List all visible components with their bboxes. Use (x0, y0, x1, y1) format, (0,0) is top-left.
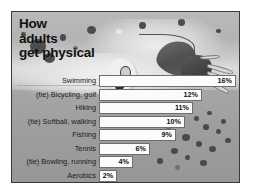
chart-row-label: Aerobics (12, 170, 99, 182)
chart-bar: 4% (99, 156, 133, 168)
title-line-3: get physical (19, 46, 129, 61)
chart-row: Swimming16% (12, 75, 239, 87)
chart-row: Tennis6% (12, 143, 239, 155)
chart-row: Fishing9% (12, 129, 239, 141)
chart-bar-value: 16% (218, 75, 235, 87)
chart-bar: 16% (99, 75, 236, 87)
chart-bar-track: 10% (99, 116, 239, 128)
chart-bar-track: 4% (99, 156, 239, 168)
chart-row: (tie) Bowling, running4% (12, 156, 239, 168)
chart-row-label: Hiking (12, 102, 99, 114)
chart-bar-track: 2% (99, 170, 239, 182)
chart-row: Aerobics2% (12, 170, 239, 182)
splash-blob (178, 19, 185, 26)
bar-chart: Swimming16%(tie) Bicycling, golf12%Hikin… (12, 75, 239, 183)
chart-row-label: Fishing (12, 129, 99, 141)
chart-bar: 11% (99, 102, 193, 114)
chart-bar-value: 10% (167, 116, 184, 128)
chart-bar-track: 11% (99, 102, 239, 114)
chart-bar: 2% (99, 170, 117, 182)
chart-row-label: Swimming (12, 75, 99, 87)
title-line-1: How (19, 17, 129, 32)
chart-row: (tie) Bicycling, golf12% (12, 89, 239, 101)
chart-bar-value: 6% (136, 143, 149, 155)
chart-bar-value: 9% (162, 129, 175, 141)
chart-bar-value: 4% (119, 156, 132, 168)
chart-bar-value: 11% (175, 102, 192, 114)
chart-bar-value: 2% (103, 170, 113, 182)
chart-row: Hiking11% (12, 102, 239, 114)
page-title: How adults get physical (19, 17, 129, 61)
chart-bar: 9% (99, 129, 176, 141)
chart-bar-track: 16% (99, 75, 239, 87)
chart-bar-value: 12% (184, 89, 201, 101)
chart-row-label: (tie) Softball, walking (12, 116, 99, 128)
chart-bar: 6% (99, 143, 150, 155)
infographic-panel: How adults get physical Swimming16%(tie)… (11, 11, 240, 183)
water-droplet (155, 39, 160, 43)
title-line-2: adults (19, 32, 129, 47)
chart-row-label: (tie) Bowling, running (12, 156, 99, 168)
chart-bar-track: 9% (99, 129, 239, 141)
chart-row-label: Tennis (12, 143, 99, 155)
chart-bar-track: 12% (99, 89, 239, 101)
chart-bar-track: 6% (99, 143, 239, 155)
splash-blob (139, 22, 146, 29)
chart-row: (tie) Softball, walking10% (12, 116, 239, 128)
chart-bar: 10% (99, 116, 185, 128)
chart-row-label: (tie) Bicycling, golf (12, 89, 99, 101)
chart-bar: 12% (99, 89, 202, 101)
